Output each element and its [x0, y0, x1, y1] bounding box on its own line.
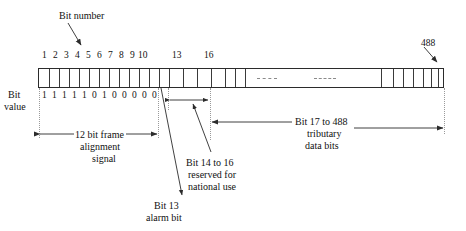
bar-tick-18	[235, 69, 236, 87]
bit-value-10: 0	[132, 90, 137, 101]
bar-ellipsis-right	[314, 78, 336, 79]
national-use-line2: reserved for	[188, 169, 236, 181]
bit-value-3: 1	[62, 90, 67, 101]
guide-end-national	[210, 88, 211, 140]
bar-tick-t2	[393, 69, 394, 87]
bit-number-caption: Bit number	[59, 10, 104, 22]
bar-tick-19	[245, 69, 246, 87]
bar-tick-4	[79, 69, 80, 87]
timeslot-frame-diagram: Bit number 1 2 3 4 5 6 7 8 9 10 13 16 48…	[0, 0, 466, 231]
bit-number-10: 10	[138, 50, 148, 61]
bit-value-1: 1	[42, 90, 47, 101]
bar-tick-3	[69, 69, 70, 87]
bit-number-6: 6	[97, 50, 102, 61]
bar-tick-10	[139, 69, 140, 87]
tributary-line1: Bit 17 to 488	[295, 116, 348, 128]
bar-tick-1	[49, 69, 50, 87]
tributary-line2: tributary	[307, 128, 341, 140]
bit-value-12: 0	[152, 90, 157, 101]
bar-tick-16	[211, 69, 212, 87]
guide-left-frame	[39, 88, 40, 138]
bit-value-4: 1	[72, 90, 77, 101]
bit-value-label-line1: Bit	[8, 89, 20, 101]
bar-tick-6	[99, 69, 100, 87]
frame-bit-bar	[38, 68, 444, 88]
bit-number-3: 3	[64, 50, 69, 61]
bar-ellipsis-left	[257, 78, 277, 79]
bit-value-11: 0	[142, 90, 147, 101]
bit-value-label-line2: value	[4, 101, 26, 113]
bit-number-5: 5	[86, 50, 91, 61]
national-use-leader-arrow	[193, 104, 211, 152]
bit-value-2: 1	[52, 90, 57, 101]
guide-start-national	[168, 88, 169, 110]
bit-number-488: 488	[421, 38, 435, 49]
bit-number-16: 16	[204, 50, 214, 61]
bar-tick-9	[129, 69, 130, 87]
bit-value-6: 0	[92, 90, 97, 101]
bit-number-pointer-arrow	[68, 23, 81, 45]
bit-value-8: 0	[112, 90, 117, 101]
bit-number-2: 2	[53, 50, 58, 61]
bit-number-9: 9	[130, 50, 135, 61]
annotation-arrows	[0, 0, 466, 231]
bar-tick-17	[225, 69, 226, 87]
bar-tick-8	[119, 69, 120, 87]
bit-value-9: 0	[122, 90, 127, 101]
alarm-bit-line2: alarm bit	[146, 212, 182, 224]
bar-tick-t1	[381, 69, 382, 87]
bar-tick-t6	[431, 69, 432, 87]
bar-tick-t4	[413, 69, 414, 87]
guide-right-end	[444, 88, 445, 134]
bar-tick-13	[169, 69, 170, 87]
bar-tick-5	[89, 69, 90, 87]
bar-tick-7	[109, 69, 110, 87]
bit-number-1: 1	[42, 50, 47, 61]
frame-alignment-line3: signal	[92, 153, 116, 165]
bar-tick-15	[197, 69, 198, 87]
bit-value-7: 1	[102, 90, 107, 101]
bit-number-4: 4	[75, 50, 80, 61]
bit-value-5: 1	[82, 90, 87, 101]
bit-number-13: 13	[172, 50, 182, 61]
bar-tick-t5	[423, 69, 424, 87]
national-use-line3: national use	[188, 181, 236, 193]
bar-tick-11	[149, 69, 150, 87]
bar-tick-t3	[403, 69, 404, 87]
bar-tick-12	[159, 69, 160, 87]
bit-488-pointer-arrow	[424, 47, 437, 62]
frame-alignment-line2: alignment	[80, 141, 120, 153]
bit-number-8: 8	[119, 50, 124, 61]
bar-tick-14	[183, 69, 184, 87]
bit-number-7: 7	[108, 50, 113, 61]
tributary-line3: data bits	[305, 140, 339, 152]
bar-tick-2	[59, 69, 60, 87]
alarm-bit-line1: Bit 13	[154, 200, 179, 212]
alarm-bit-leader-arrow	[161, 88, 182, 195]
guide-end-frame	[158, 88, 159, 138]
frame-alignment-line1: 12 bit frame	[75, 129, 124, 141]
national-use-line1: Bit 14 to 16	[186, 157, 234, 169]
bar-tick-t7	[438, 69, 439, 87]
